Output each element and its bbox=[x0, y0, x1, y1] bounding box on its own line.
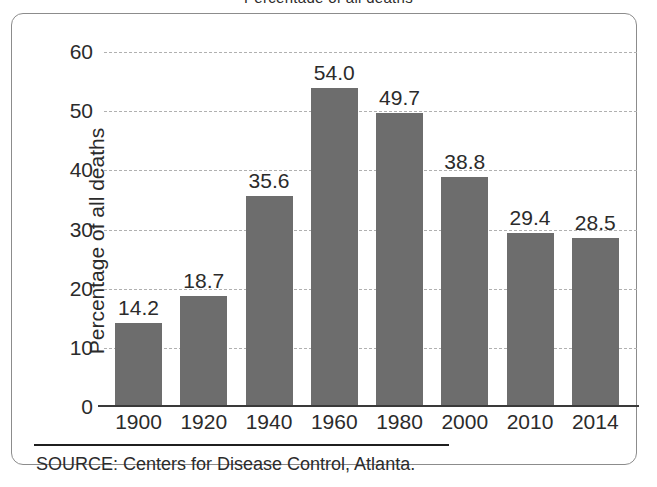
x-axis-tick-labels: 19001920194019601980200020102014 bbox=[104, 410, 637, 434]
bar: 35.6 bbox=[246, 196, 293, 407]
bar-value-label: 54.0 bbox=[314, 61, 355, 85]
x-axis-tick: 1920 bbox=[180, 410, 245, 434]
bar-slot: 28.5 bbox=[572, 52, 637, 407]
bar-slot: 49.7 bbox=[376, 52, 441, 407]
bar-slot: 38.8 bbox=[441, 52, 506, 407]
x-axis-line bbox=[98, 405, 639, 407]
x-axis-tick: 2000 bbox=[441, 410, 506, 434]
x-axis-tick: 1900 bbox=[115, 410, 180, 434]
bar: 29.4 bbox=[507, 233, 554, 407]
x-axis-tick: 1960 bbox=[311, 410, 376, 434]
bar: 14.2 bbox=[115, 323, 162, 407]
figure-frame: Percentage of all deaths 0102030405060 1… bbox=[11, 13, 637, 465]
bar-value-label: 28.5 bbox=[575, 211, 616, 235]
bar-value-label: 29.4 bbox=[510, 206, 551, 230]
y-axis-tick: 60 bbox=[70, 40, 93, 64]
bar-slot: 54.0 bbox=[311, 52, 376, 407]
y-axis-tick: 10 bbox=[70, 336, 93, 360]
bar-series: 14.218.735.654.049.738.829.428.5 bbox=[104, 52, 637, 407]
source-note: SOURCE: Centers for Disease Control, Atl… bbox=[36, 454, 415, 475]
x-axis-tick: 1980 bbox=[376, 410, 441, 434]
x-axis-tick: 2014 bbox=[572, 410, 637, 434]
bar-value-label: 49.7 bbox=[379, 86, 420, 110]
bar: 38.8 bbox=[441, 177, 488, 407]
x-axis-tick: 2010 bbox=[507, 410, 572, 434]
y-axis-tick: 50 bbox=[70, 99, 93, 123]
bar-value-label: 35.6 bbox=[249, 169, 290, 193]
y-axis-tick: 40 bbox=[70, 158, 93, 182]
bar: 28.5 bbox=[572, 238, 619, 407]
bar: 54.0 bbox=[311, 88, 358, 408]
bar-value-label: 14.2 bbox=[118, 296, 159, 320]
bar-value-label: 38.8 bbox=[444, 150, 485, 174]
bar: 18.7 bbox=[180, 296, 227, 407]
bar-value-label: 18.7 bbox=[183, 269, 224, 293]
bar-slot: 35.6 bbox=[246, 52, 311, 407]
bar-slot: 29.4 bbox=[507, 52, 572, 407]
bar-slot: 14.2 bbox=[115, 52, 180, 407]
source-divider bbox=[34, 444, 449, 446]
y-axis-tick: 20 bbox=[70, 277, 93, 301]
plot-area: Percentage of all deaths 0102030405060 1… bbox=[104, 52, 637, 407]
bar-slot: 18.7 bbox=[180, 52, 245, 407]
bar: 49.7 bbox=[376, 113, 423, 407]
x-axis-tick: 1940 bbox=[246, 410, 311, 434]
y-axis-tick: 30 bbox=[70, 218, 93, 242]
chart-screenshot: Percentage of all deaths Percentage of a… bbox=[0, 0, 657, 487]
y-axis-tick: 0 bbox=[81, 395, 93, 419]
